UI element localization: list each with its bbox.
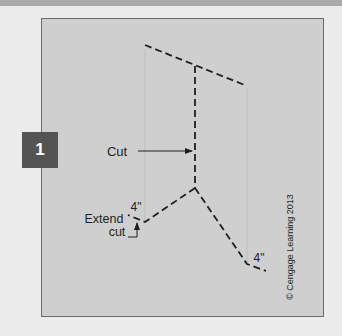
extend-cut-label-line1: Extend <box>85 212 124 226</box>
cut-label: Cut <box>107 144 128 159</box>
dimension-label-right: 4" <box>254 251 265 265</box>
dashed-cut-lines <box>128 45 266 271</box>
extend-cut-label-line2: cut <box>109 225 126 239</box>
copyright-text: © Cengage Learning 2013 <box>285 194 295 300</box>
dimension-label-left: 4" <box>131 200 142 214</box>
cut-layout-diagram: Cut Extend cut 4" 4" © Cengage Learning … <box>0 0 342 336</box>
top-cut-line <box>145 45 247 86</box>
guide-lines <box>145 50 247 262</box>
extend-cut-arrow <box>128 223 137 237</box>
